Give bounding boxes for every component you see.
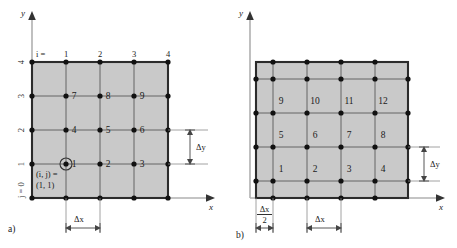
cell-number-1: 1 [279,164,284,174]
grid-arrangement-figure: y x [0,0,457,248]
half-delta-x-denominator: 2 [262,215,266,225]
delta-x-label-a: Δx [74,214,84,224]
i-index-prefix-a: i = [36,49,45,59]
delta-x-label-b: Δx [315,214,325,224]
j-tick-3: 3 [16,94,26,98]
delta-y-label-b: Δy [430,159,440,169]
j-tick-1: 1 [16,162,26,166]
origin-annotation-line1: (i, j) = [36,169,58,179]
node-number-8: 8 [106,91,111,101]
i-tick-3: 3 [132,49,136,59]
node-number-1: 1 [72,159,77,169]
cell-number-6: 6 [313,130,318,140]
y-axis-b [246,11,254,198]
node-number-4: 4 [72,125,77,135]
origin-annotation-line2: (1, 1) [36,180,55,190]
cell-number-10: 10 [310,96,320,106]
node-number-5: 5 [106,125,111,135]
y-axis-label-a: y [20,8,25,18]
panel-label-b: b) [236,230,244,241]
cell-number-8: 8 [381,130,386,140]
cell-number-12: 12 [378,96,388,106]
node-number-2: 2 [106,159,111,169]
i-tick-2: 2 [98,49,102,59]
panel-b-cell-centered-grid: y x [228,0,457,248]
panel-a-vertex-centered-grid: y x [0,0,228,248]
x-axis-label-a: x [208,202,213,212]
x-axis-label-b: x [438,202,443,212]
node-number-7: 7 [72,91,77,101]
i-tick-1: 1 [64,49,68,59]
cell-number-9: 9 [279,96,284,106]
half-delta-x-numerator: Δx [260,204,270,214]
cell-number-3: 3 [347,164,352,174]
j-tick-2: 2 [16,128,26,132]
cell-number-5: 5 [279,130,284,140]
cell-number-11: 11 [344,96,353,106]
node-number-6: 6 [140,125,145,135]
node-number-9: 9 [140,91,145,101]
j-tick-4: 4 [16,59,26,64]
cell-number-2: 2 [313,164,318,174]
i-tick-4: 4 [166,49,171,59]
delta-y-label-a: Δy [196,142,206,152]
y-axis-label-b: y [238,8,243,18]
panel-label-a: a) [8,224,15,235]
cell-number-4: 4 [381,164,386,174]
node-number-3: 3 [140,159,145,169]
cell-number-7: 7 [347,130,352,140]
j-origin-label: j = 0 [16,182,26,199]
